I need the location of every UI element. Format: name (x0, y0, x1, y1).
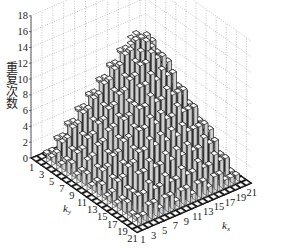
y-tick-label: 21 (127, 233, 138, 244)
x-tick-label: 21 (247, 187, 258, 198)
z-tick-label: 8 (23, 89, 28, 100)
bar-side (108, 163, 112, 197)
grid-line (31, 0, 145, 32)
grid-line (31, 0, 145, 16)
x-tick-label: 19 (236, 192, 247, 203)
z-tick-label: 12 (18, 58, 29, 69)
grid-line (145, 0, 251, 57)
z-tick-label: 4 (23, 121, 29, 132)
svg-text:kx: kx (222, 219, 231, 233)
x-tick-label: 11 (192, 211, 202, 222)
z-tick-label: 0 (23, 153, 28, 164)
x-tick-label: 5 (162, 225, 167, 236)
x-axis-label: kx (222, 219, 231, 233)
y-tick-label: 15 (97, 211, 108, 222)
svg-text:ky: ky (63, 202, 72, 216)
x-axis-label-sub: x (226, 225, 231, 233)
z-tick-label: 10 (18, 74, 29, 85)
y-tick-label: 1 (29, 162, 34, 173)
y-axis-label-sub: y (67, 208, 72, 216)
x-tick-label: 13 (203, 206, 214, 217)
y-tick-label: 9 (69, 190, 74, 201)
z-tick-label: 6 (23, 105, 28, 116)
grid-line (145, 0, 251, 41)
x-tick-label: 1 (140, 234, 145, 245)
x-tick-label: 9 (184, 216, 189, 227)
x-tick-label: 3 (151, 230, 156, 241)
x-tick-label: 15 (214, 201, 225, 212)
y-tick-label: 7 (59, 183, 64, 194)
y-tick-label: 19 (117, 226, 128, 237)
x-tick-label: 17 (225, 197, 236, 208)
z-tick-label: 18 (18, 10, 29, 21)
y-axis-label: ky (63, 202, 72, 216)
bar3d-chart: 0246810121416181357911131517192113579111… (0, 0, 290, 248)
z-tick-label: 16 (18, 26, 29, 37)
y-tick-label: 13 (87, 204, 98, 215)
z-tick-label: 14 (18, 42, 29, 53)
y-tick-label: 17 (107, 219, 118, 230)
x-tick-label: 7 (173, 220, 178, 231)
y-tick-label: 5 (49, 176, 54, 187)
bar-side (93, 152, 97, 186)
z-axis-label: 重复次数 (3, 61, 17, 110)
y-tick-label: 11 (77, 197, 87, 208)
z-tick-label: 2 (23, 137, 28, 148)
y-tick-label: 3 (39, 169, 44, 180)
grid-line (31, 0, 145, 47)
